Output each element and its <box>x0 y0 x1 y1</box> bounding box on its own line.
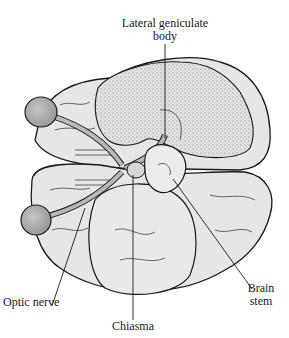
label-optic-nerve: Optic nerve <box>3 296 59 309</box>
label-brain-stem: Brain stem <box>244 282 278 308</box>
label-brain-stem-line2: stem <box>244 295 278 308</box>
chiasma-structure <box>127 162 145 178</box>
temporal-lobe <box>89 184 196 294</box>
eyeball-upper <box>25 97 57 127</box>
label-chiasma: Chiasma <box>112 320 154 333</box>
label-lgb-line2: body <box>115 30 215 43</box>
eyeball-lower <box>21 205 51 235</box>
label-lateral-geniculate-body: Lateral geniculate body <box>115 17 215 43</box>
